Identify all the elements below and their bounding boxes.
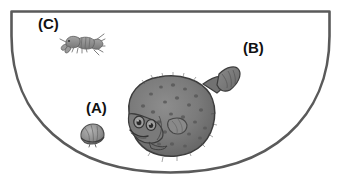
label-c: (C) xyxy=(38,16,59,31)
figure-root: (C) (B) (A) xyxy=(0,0,341,185)
shell-body xyxy=(81,124,104,144)
label-a: (A) xyxy=(86,100,107,115)
label-b: (B) xyxy=(243,40,264,55)
